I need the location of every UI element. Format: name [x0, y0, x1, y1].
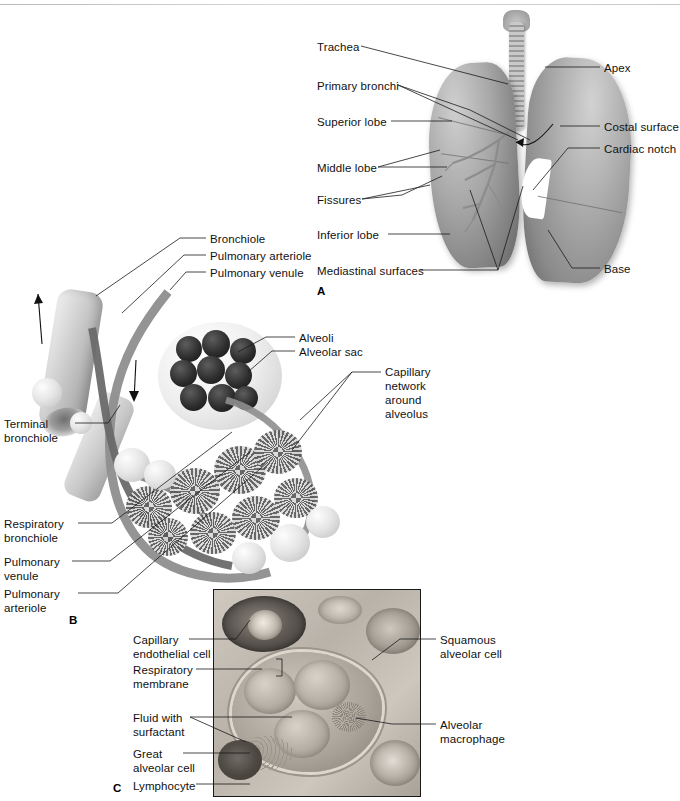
- label-middle-lobe: Middle lobe: [317, 162, 377, 176]
- label-capillary-network-l1: Capillary: [385, 366, 431, 380]
- scan-top-rule: [0, 4, 680, 5]
- label-capillary-endothelial-cell-l1: Capillary: [133, 634, 179, 648]
- label-great-alveolar-cell-l1: Great: [133, 748, 162, 762]
- label-terminal-bronchiole-l2: bronchiole: [4, 432, 58, 446]
- label-great-alveolar-cell-l2: alveolar cell: [133, 762, 195, 776]
- label-respiratory-membrane-l2: membrane: [133, 678, 189, 692]
- label-inferior-lobe: Inferior lobe: [317, 229, 379, 243]
- alveolus-cut: [170, 360, 197, 387]
- panel-letter-c: C: [113, 782, 121, 794]
- label-respiratory-membrane-l1: Respiratory: [133, 664, 193, 678]
- label-mediastinal-surfaces: Mediastinal surfaces: [317, 265, 424, 279]
- label-respiratory-bronchiole-l2: bronchiole: [4, 532, 58, 546]
- capillary-network: [254, 430, 302, 474]
- label-squamous-alveolar-cell-l1: Squamous: [440, 634, 496, 648]
- label-terminal-bronchiole-l1: Terminal: [4, 418, 48, 432]
- panel-c-illustration: [213, 589, 421, 797]
- label-pulmonary-arteriole-left-l1: Pulmonary: [4, 588, 60, 602]
- label-fluid-with-surfactant-l2: surfactant: [133, 726, 185, 740]
- alveolar-sac-cluster: [166, 328, 276, 423]
- label-capillary-endothelial-cell-l2: endothelial cell: [133, 648, 211, 662]
- label-costal-surface: Costal surface: [604, 121, 679, 135]
- panel-b-illustration: [18, 280, 388, 610]
- alveolus-cut: [202, 330, 230, 358]
- label-capillary-network-l2: network: [385, 380, 426, 394]
- alveolus-cut: [176, 336, 202, 362]
- label-superior-lobe: Superior lobe: [317, 116, 387, 130]
- lymphocyte-body: [218, 740, 262, 780]
- label-respiratory-bronchiole-l1: Respiratory: [4, 518, 64, 532]
- label-alveoli: Alveoli: [299, 332, 334, 346]
- label-fissures: Fissures: [317, 194, 361, 208]
- alveolus-cut: [180, 384, 207, 411]
- label-pulmonary-arteriole-top: Pulmonary arteriole: [210, 250, 312, 264]
- alveolus-cut: [234, 386, 258, 410]
- label-capillary-network-l4: alveolus: [385, 408, 428, 422]
- capillary-network: [148, 518, 188, 556]
- alveolus-cut: [197, 356, 225, 384]
- squamous-cell-body: [244, 668, 296, 714]
- alveolus-bubble: [232, 542, 266, 574]
- label-alveolar-macrophage-l1: Alveolar: [440, 719, 482, 733]
- label-lymphocyte: Lymphocyte: [133, 780, 196, 794]
- alveolus-cut: [208, 384, 236, 412]
- right-lung-shape: [425, 61, 524, 270]
- alveolus-bubble: [306, 506, 340, 538]
- capillary-network: [170, 468, 220, 514]
- alveolus-cut: [230, 338, 256, 364]
- label-pulmonary-venule-top: Pulmonary venule: [210, 267, 304, 281]
- label-fluid-with-surfactant-l1: Fluid with: [133, 712, 183, 726]
- label-bronchiole: Bronchiole: [210, 233, 265, 247]
- label-squamous-alveolar-cell-l2: alveolar cell: [440, 648, 502, 662]
- adjacent-capillary: [370, 740, 420, 786]
- label-capillary-network-l3: around: [385, 394, 421, 408]
- label-trachea: Trachea: [317, 41, 359, 55]
- label-pulmonary-arteriole-left-l2: arteriole: [4, 602, 46, 616]
- label-alveolar-macrophage-l2: macrophage: [440, 733, 505, 747]
- alveolus-bubble: [32, 378, 62, 408]
- alveolus-bubble: [144, 460, 176, 490]
- septum-tissue: [318, 596, 362, 624]
- label-pulmonary-venule-left-l2: venule: [4, 570, 39, 584]
- respiratory-anatomy-figure: Trachea Primary bronchi Superior lobe Mi…: [0, 0, 680, 801]
- erythrocyte: [248, 610, 282, 640]
- alveolus-bubble: [70, 412, 92, 434]
- label-alveolar-sac: Alveolar sac: [299, 346, 363, 360]
- panel-letter-b: B: [69, 614, 77, 626]
- label-base: Base: [604, 263, 631, 277]
- label-pulmonary-venule-left-l1: Pulmonary: [4, 556, 60, 570]
- label-apex: Apex: [604, 62, 631, 76]
- label-cardiac-notch: Cardiac notch: [604, 143, 676, 157]
- alveolus-bubble: [270, 524, 310, 562]
- adjacent-alveolus: [366, 608, 420, 654]
- label-primary-bronchi: Primary bronchi: [317, 80, 399, 94]
- alveolar-macrophage-body: [332, 702, 366, 732]
- capillary-network: [190, 512, 236, 554]
